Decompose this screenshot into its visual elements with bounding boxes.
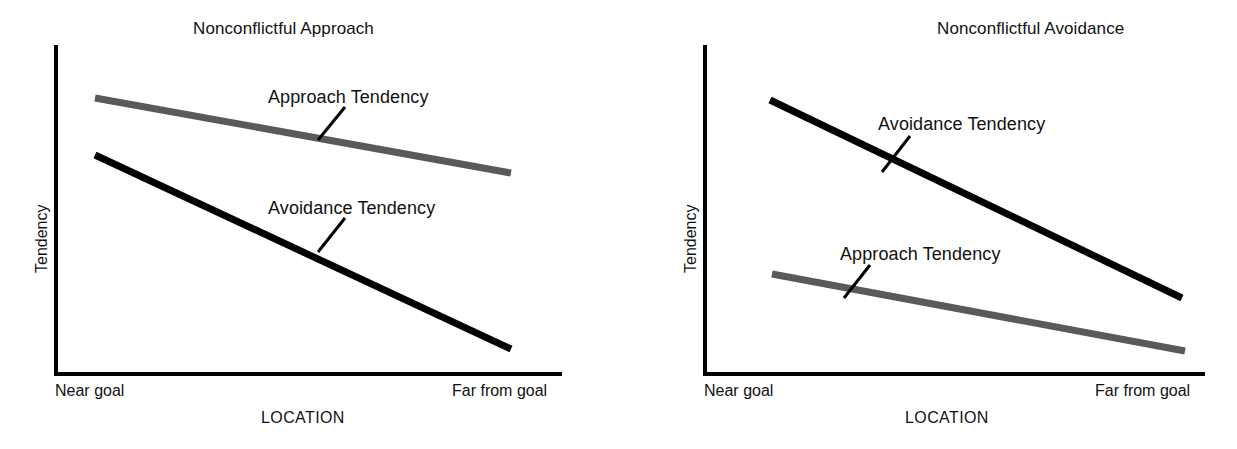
left-series-line-avoidance-tendency [95, 155, 511, 349]
left-callout-leader-avoidance-tendency [318, 218, 345, 252]
chart-panel-nonconflictful-approach: Nonconflictful Approach Approach Tendenc… [0, 0, 618, 449]
left-x-tick-near-goal: Near goal [55, 383, 124, 399]
right-x-tick-near-goal: Near goal [704, 383, 773, 399]
left-panel-title: Nonconflictful Approach [193, 20, 374, 37]
chart-panel-nonconflictful-avoidance: Nonconflictful Avoidance Avoidance Tende… [618, 0, 1237, 449]
left-x-axis-title: LOCATION [261, 410, 345, 426]
left-series-label-approach-tendency: Approach Tendency [268, 88, 428, 106]
right-x-axis-title: LOCATION [905, 410, 989, 426]
left-x-tick-far-from-goal: Far from goal [452, 383, 547, 399]
figure-canvas: Nonconflictful Approach Approach Tendenc… [0, 0, 1237, 449]
right-series-label-approach-tendency: Approach Tendency [840, 245, 1000, 263]
left-series-label-avoidance-tendency: Avoidance Tendency [268, 199, 435, 217]
right-series-line-approach-tendency [772, 274, 1185, 351]
right-series-label-avoidance-tendency: Avoidance Tendency [878, 115, 1045, 133]
left-y-axis-title: Tendency [34, 205, 50, 274]
right-panel-title: Nonconflictful Avoidance [937, 20, 1124, 37]
right-x-tick-far-from-goal: Far from goal [1095, 383, 1190, 399]
left-series-line-approach-tendency [95, 98, 511, 173]
left-callout-leader-approach-tendency [318, 107, 345, 140]
right-y-axis-title: Tendency [683, 205, 699, 274]
